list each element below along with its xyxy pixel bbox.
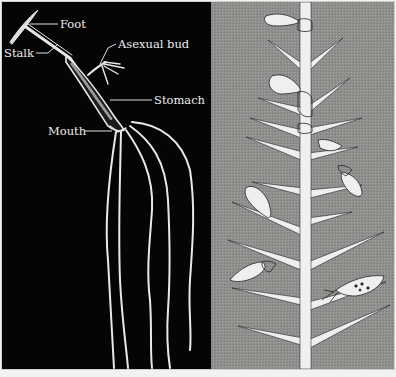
label-foot: Foot <box>60 17 86 31</box>
hydra-body <box>10 10 193 368</box>
label-mouth: Mouth <box>48 124 87 138</box>
label-stomach: Stomach <box>154 93 206 107</box>
label-asexual-bud: Asexual bud <box>117 37 190 51</box>
illustration-drawing: Foot Asexual bud Stalk Stomach Mouth <box>0 0 396 377</box>
label-stalk: Stalk <box>4 46 35 60</box>
hydra-illustration: Foot Asexual bud Stalk Stomach Mouth <box>0 0 396 377</box>
